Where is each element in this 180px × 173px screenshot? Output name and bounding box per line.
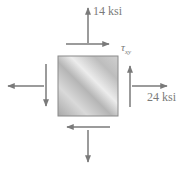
stress-element-diagram — [0, 0, 180, 173]
sigma-x-label: 24 ksi — [147, 90, 176, 105]
tau-xy-label: τxy — [121, 41, 131, 56]
tau-subscript: xy — [125, 48, 131, 56]
stress-element-square — [58, 56, 118, 116]
sigma-y-label: 14 ksi — [93, 4, 122, 19]
